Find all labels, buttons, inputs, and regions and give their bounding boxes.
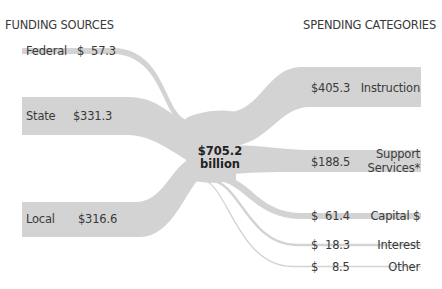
flow-state bbox=[22, 97, 190, 162]
category-interest-name: Interest bbox=[377, 238, 420, 252]
category-capital-value: $ 61.4 bbox=[311, 209, 350, 223]
flow-instruction bbox=[230, 67, 421, 146]
total-label: $705.2 billion bbox=[190, 145, 250, 171]
category-instruction-value: $405.3 bbox=[311, 81, 350, 95]
source-local-name: Local bbox=[26, 212, 55, 226]
source-state-value: $331.3 bbox=[73, 109, 112, 123]
category-other-name: Other bbox=[388, 260, 420, 274]
category-support-name: Support Services* bbox=[368, 147, 420, 175]
category-interest-value: $ 18.3 bbox=[311, 238, 350, 252]
source-federal-value: $ 57.3 bbox=[77, 44, 116, 58]
category-support-value: $188.5 bbox=[311, 155, 350, 169]
category-capital-name: Capital $ bbox=[371, 209, 421, 223]
source-state-name: State bbox=[26, 109, 55, 123]
source-local-value: $316.6 bbox=[78, 212, 117, 226]
funding-sources-header: FUNDING SOURCES bbox=[5, 18, 114, 32]
spending-categories-header: SPENDING CATEGORIES bbox=[303, 18, 436, 32]
category-other-value: $ 8.5 bbox=[311, 260, 350, 274]
flow-other bbox=[206, 181, 421, 267]
category-instruction-name: Instruction bbox=[361, 81, 420, 95]
category-support-name-line1: Support bbox=[368, 147, 420, 161]
category-support-name-line2: Services* bbox=[368, 161, 420, 175]
total-unit: billion bbox=[190, 158, 250, 171]
source-federal-name: Federal bbox=[26, 44, 67, 58]
